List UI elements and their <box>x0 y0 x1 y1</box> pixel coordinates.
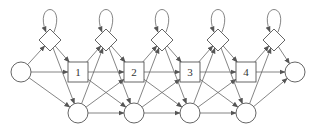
bottom-circle-node <box>124 103 144 123</box>
bottom-circle-node <box>236 103 256 123</box>
start-circle-node <box>11 62 31 82</box>
box-label: 3 <box>187 66 193 78</box>
edge-arrow <box>254 78 288 106</box>
nodes: 1234 <box>11 29 305 123</box>
edge-arrow <box>142 79 180 107</box>
edges <box>28 10 290 114</box>
edge-arrow <box>28 46 45 65</box>
state-diagram: 1234 <box>0 0 316 127</box>
bottom-circle-node <box>180 103 200 123</box>
box-label: 1 <box>75 66 81 78</box>
diamond-node <box>207 29 229 51</box>
edge-arrow <box>88 79 126 107</box>
end-circle-node <box>285 62 305 82</box>
edge-arrow <box>200 79 238 107</box>
diamond-node <box>263 29 285 51</box>
bottom-circle-node <box>68 103 88 123</box>
diamond-node <box>39 29 61 51</box>
edge-arrow <box>86 79 124 107</box>
edge-arrow <box>198 79 236 107</box>
edge-arrow <box>29 78 70 107</box>
edge-arrow <box>144 79 182 107</box>
diamond-node <box>95 29 117 51</box>
edge-arrow <box>278 47 289 64</box>
box-label: 2 <box>131 66 137 78</box>
box-label: 4 <box>243 66 249 78</box>
diamond-node <box>151 29 173 51</box>
